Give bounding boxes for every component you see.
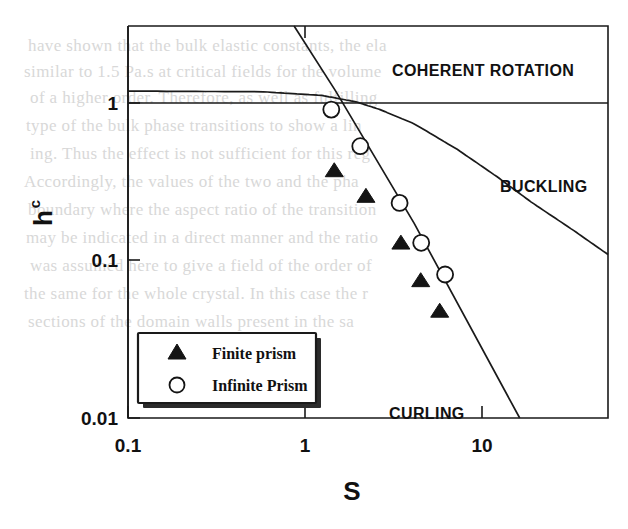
x-axis-title: S	[343, 476, 360, 506]
curling-boundary-curve	[294, 26, 520, 418]
data-point-finite-prism	[325, 163, 343, 177]
y-axis-title-main: h	[28, 210, 58, 226]
y-tick-label-0-01: 0.01	[81, 408, 118, 429]
data-point-infinite-prism	[352, 138, 368, 154]
region-label-buckling: BUCKLING	[500, 178, 588, 195]
y-tick-label-0-1: 0.1	[92, 250, 119, 271]
data-point-finite-prism	[412, 273, 430, 287]
legend-label-finite-prism: Finite prism	[212, 345, 297, 363]
y-axis-title-subscript: c	[26, 200, 43, 208]
open-circle-icon	[170, 378, 185, 393]
data-markers	[323, 102, 453, 318]
x-tick-label-0-1: 0.1	[115, 435, 142, 456]
buckling-boundary-curve	[128, 91, 608, 254]
data-point-finite-prism	[357, 188, 375, 202]
region-label-curling: CURLING	[389, 405, 465, 422]
chart-svg: 1 0.1 0.01 0.1 1 10 h c S COHERENT ROTAT…	[0, 0, 628, 529]
data-point-finite-prism	[431, 303, 449, 317]
data-point-finite-prism	[392, 235, 410, 249]
data-point-infinite-prism	[437, 267, 453, 283]
region-label-coherent-rotation: COHERENT ROTATION	[392, 62, 574, 79]
data-point-infinite-prism	[323, 102, 339, 118]
y-tick-label-1: 1	[107, 93, 118, 114]
data-point-infinite-prism	[413, 235, 429, 251]
y-axis-title: h c	[26, 200, 58, 226]
x-tick-label-10: 10	[471, 435, 492, 456]
legend-label-infinite-prism: Infinite Prism	[212, 377, 308, 394]
x-tick-label-1: 1	[300, 435, 311, 456]
data-point-infinite-prism	[392, 195, 408, 211]
chart-legend: Finite prism Infinite Prism	[138, 333, 321, 408]
phase-diagram-figure: 1 0.1 0.01 0.1 1 10 h c S COHERENT ROTAT…	[0, 0, 628, 529]
